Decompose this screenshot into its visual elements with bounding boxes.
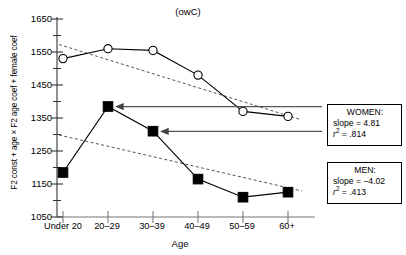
women-legend-slope: slope = 4.81 — [333, 118, 397, 129]
women-legend-heading: WOMEN: — [333, 107, 397, 118]
men-data-line — [63, 107, 288, 198]
women-legend-box: WOMEN: slope = 4.81 r2 = .814 — [327, 104, 402, 146]
men-point-under-20 — [58, 168, 68, 178]
women-point-40-49 — [194, 71, 202, 79]
women-markers — [59, 45, 292, 121]
men-legend-r2: r2 = .413 — [333, 187, 397, 198]
men-r2-value: = .413 — [339, 187, 366, 197]
men-point-20-29 — [103, 102, 113, 112]
men-point-30-39 — [148, 126, 158, 136]
women-trend-line — [59, 45, 300, 120]
women-legend-r2: r2 = .814 — [333, 129, 397, 140]
women-point-60plus — [284, 112, 292, 120]
men-point-60plus — [283, 187, 293, 197]
men-point-40-49 — [193, 174, 203, 184]
men-trend-line — [59, 135, 302, 191]
chart-figure: F2 const + age × F2 age coef + female co… — [0, 0, 406, 255]
women-point-20-29 — [104, 45, 112, 53]
men-legend-slope: slope = −4.02 — [333, 176, 397, 187]
women-point-under-20 — [59, 55, 67, 63]
women-r2-value: = .814 — [339, 129, 366, 139]
men-legend-heading: MEN: — [333, 165, 397, 176]
men-point-50-59 — [238, 192, 248, 202]
women-point-50-59 — [239, 107, 247, 115]
women-point-30-39 — [149, 46, 157, 54]
men-legend-box: MEN: slope = −4.02 r2 = .413 — [327, 162, 402, 204]
men-markers — [58, 102, 293, 202]
